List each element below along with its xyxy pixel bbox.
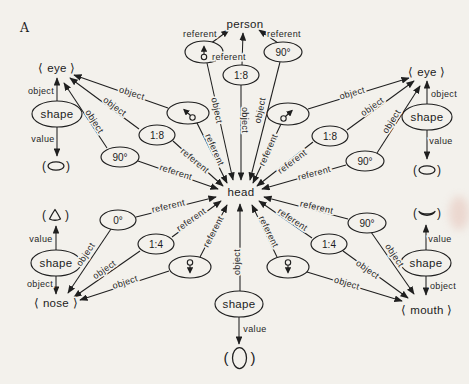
paren-close: ) [65,208,69,222]
figure-panel-label: A [19,20,30,35]
paren-close: ) [437,206,441,220]
edge-label-referent: referent [212,52,246,62]
paren-open: ( [224,349,229,366]
head-shape-glyph: ( ) [224,348,256,369]
edge-label-object: object [101,95,128,119]
paren-close: ) [437,163,441,177]
edge-label-object: object [354,258,381,281]
shape-node-label: shape [411,111,444,123]
head-node: head [228,186,255,198]
edge-label-value: value [428,234,451,244]
shape-node-label: shape [223,298,256,310]
edge-label-object: object [83,108,105,136]
edge-label-referent: referent [201,214,226,249]
attr-label-ratio18: 1:8 [150,130,164,141]
paren-close: ) [66,159,70,173]
attr-label-90deg: 90° [112,152,127,163]
pink-smudge-artifact [449,196,469,230]
edge-label-value: value [31,134,54,144]
edge-label-object: object [28,86,54,96]
attr-label-ratio18: 1:8 [323,131,337,142]
edge-label-value: value [243,324,266,334]
mouth-node: ⟨ mouth ⟩ [401,304,452,316]
edge-label-object: object [383,242,406,269]
semantic-network-diagram: ( ) ( ) ( ) ( ) ( ) A person head ⟨ eye [0,0,469,384]
attr-label-90deg: 90° [359,218,374,229]
edge-label-referent: referent [175,206,209,234]
edge-label-referent: referent [151,197,186,214]
eye-left-node: ⟨ eye ⟩ [38,62,75,74]
edge-label-referent: referent [257,132,280,167]
nose-shape-glyph: ( ) [42,208,69,222]
attr-label-ratio14: 1:4 [322,239,336,250]
attr-label-90deg: 90° [275,47,290,58]
edge-label-referent: referent [158,162,193,182]
paren-open: ( [413,206,417,220]
scanned-figure-page: ( ) ( ) ( ) ( ) ( ) A person head ⟨ eye [0,0,469,384]
paren-open: ( [42,208,46,222]
eye-right-node: ⟨ eye ⟩ [408,66,445,78]
person-node: person [227,18,264,30]
paren-open: ( [42,159,46,173]
edge-label-value: value [429,136,452,146]
edge-label-object: object [232,249,242,275]
edge-label-referent: referent [297,164,332,182]
edge-label-referent: referent [203,132,226,167]
shape-node-label: shape [41,108,74,120]
edge-label-referent: referent [267,29,301,39]
attr-label-90deg: 90° [357,156,372,167]
edge-label-value: value [29,234,52,244]
shape-node-label: shape [40,257,73,269]
attr-label-0deg: 0° [113,215,123,226]
edge-label-referent: referent [299,198,334,215]
edge-label-object: object [111,273,139,291]
edge-label-object: object [118,84,146,102]
edge-label-object: object [27,279,53,289]
edge-label-object: object [338,85,366,102]
edge-label-object: object [240,107,250,133]
attr-label-ratio18: 1:8 [234,70,248,81]
edge-label-object: object [430,281,456,291]
edge-label-object: object [209,97,224,125]
edge-label-object: object [431,89,457,99]
edge-label-referent: referent [276,206,310,233]
attr-label-ratio14: 1:4 [149,239,163,250]
paren-close: ) [251,349,256,366]
edge-label-object: object [333,275,361,292]
paren-open: ( [413,163,417,177]
eye-shape-glyph: ( ) [413,163,441,177]
edge-label-referent: referent [183,29,217,39]
eye-shape-glyph: ( ) [42,159,70,173]
edge-label-object: object [359,95,386,118]
shape-node-label: shape [410,257,443,269]
edge-label-referent: referent [257,214,281,249]
mouth-shape-glyph: ( ) [413,206,441,220]
nose-node: ⟨ nose ⟩ [34,297,78,309]
